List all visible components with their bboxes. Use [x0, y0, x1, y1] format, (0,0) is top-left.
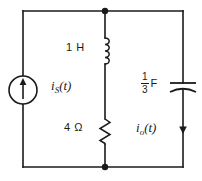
output-current-label-arg: (t)	[144, 120, 156, 135]
circuit-schematic-svg	[0, 0, 202, 181]
inductor-coil-path	[105, 38, 109, 64]
junction-dot-top	[102, 8, 108, 14]
capacitor-fraction: 1 3	[141, 72, 149, 95]
current-source-symbol	[9, 76, 37, 104]
junction-dot-bottom	[102, 164, 108, 170]
capacitor-value-label: 1 3 F	[141, 72, 157, 95]
resistor-symbol	[100, 119, 110, 145]
inductor-value-label: 1 H	[66, 42, 85, 53]
capacitor-fraction-numerator: 1	[141, 72, 149, 83]
output-current-arrow-head	[179, 127, 187, 135]
resistor-value-label: 4 Ω	[64, 122, 83, 133]
resistor-zigzag-path	[100, 119, 110, 145]
output-current-label: io(t)	[136, 121, 156, 137]
current-source-label-arg: (t)	[59, 78, 71, 93]
circuit-diagram: 1 H 4 Ω iS(t) io(t) 1 3 F	[0, 0, 202, 181]
capacitor-fraction-denominator: 3	[141, 84, 149, 95]
current-source-label: iS(t)	[51, 79, 71, 95]
inductor-symbol	[105, 38, 109, 64]
capacitor-unit: F	[151, 78, 158, 89]
output-current-arrow	[179, 127, 187, 135]
